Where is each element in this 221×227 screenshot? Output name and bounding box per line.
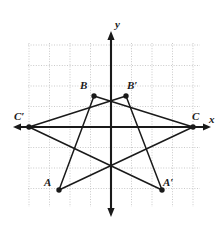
point-Ap — [159, 187, 164, 192]
segment-BC — [94, 96, 193, 127]
label-A: A — [43, 176, 51, 188]
point-Bp — [123, 93, 128, 98]
coordinate-plane-figure: xy ABCA′B′C′ — [0, 0, 221, 227]
x-axis-label: x — [208, 113, 215, 125]
point-A — [56, 187, 61, 192]
point-Cp — [26, 124, 31, 129]
label-B: B — [79, 79, 87, 91]
label-Bp: B′ — [126, 79, 137, 91]
coordinate-plane-svg: xy ABCA′B′C′ — [0, 0, 221, 227]
grid-lines — [28, 43, 200, 207]
label-C: C — [192, 110, 200, 122]
y-axis-label: y — [113, 18, 120, 30]
label-Cp: C′ — [14, 110, 24, 122]
point-B — [91, 93, 96, 98]
point-C — [190, 124, 195, 129]
label-Ap: A′ — [162, 176, 173, 188]
